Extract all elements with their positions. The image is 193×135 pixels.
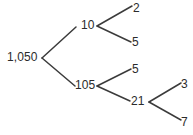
edge-ten-to-two [97, 6, 132, 26]
tree-branches-svg [0, 0, 193, 135]
node-label-3: 3 [181, 78, 188, 90]
node-label-2: 2 [133, 2, 140, 14]
node-label-10: 10 [81, 19, 95, 31]
edge-21-to-three [149, 83, 181, 102]
edge-105-to-five [97, 69, 131, 86]
node-label-1050: 1,050 [7, 51, 38, 63]
edge-105-to-21 [97, 86, 130, 101]
node-label-7: 7 [181, 116, 188, 128]
edge-root-to-ten [42, 27, 76, 58]
edge-root-to-105 [42, 58, 75, 86]
node-label-21: 21 [131, 95, 145, 107]
node-label-5-from-10: 5 [132, 36, 139, 48]
edge-ten-to-five [97, 26, 131, 42]
node-label-105: 105 [75, 79, 95, 91]
edge-21-to-seven [149, 102, 181, 120]
node-label-5-from-105: 5 [132, 63, 139, 75]
factor-tree-diagram: 1,050 10 2 5 105 5 21 3 7 [0, 0, 193, 135]
